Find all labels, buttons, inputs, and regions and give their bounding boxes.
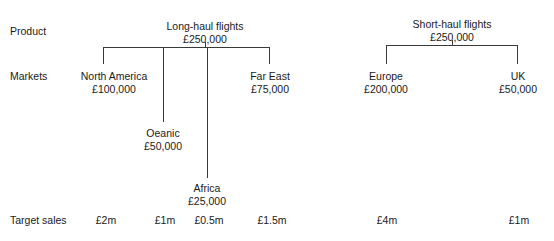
short-haul-connector-group: [386, 40, 518, 64]
node-long-haul-flights-value: £250,000: [166, 33, 243, 46]
node-north-america: North America £100,000: [81, 70, 148, 95]
node-north-america-name: North America: [81, 70, 148, 83]
node-oeanic-name: Oeanic: [144, 127, 182, 140]
row-label-markets: Markets: [10, 70, 47, 82]
node-far-east: Far East £75,000: [250, 70, 290, 95]
node-europe-value: £200,000: [364, 83, 408, 96]
node-africa-value: £25,000: [188, 195, 226, 208]
row-label-target-sales: Target sales: [10, 214, 67, 226]
node-uk-name: UK: [499, 70, 537, 83]
node-africa: Africa £25,000: [188, 182, 226, 207]
node-short-haul-flights-name: Short-haul flights: [413, 18, 492, 31]
row-label-product: Product: [10, 25, 46, 37]
node-far-east-value: £75,000: [250, 83, 290, 96]
node-uk: UK £50,000: [499, 70, 537, 95]
target-sales-africa: £0.5m: [194, 214, 223, 226]
node-oeanic: Oeanic £50,000: [144, 127, 182, 152]
node-africa-name: Africa: [188, 182, 226, 195]
hierarchy-diagram: Product Markets Target sales Long-haul f…: [0, 0, 554, 241]
node-short-haul-flights: Short-haul flights £250,000: [413, 18, 492, 43]
node-uk-value: £50,000: [499, 83, 537, 96]
long-haul-connector-group: [103, 42, 270, 178]
target-sales-far-east: £1.5m: [257, 214, 286, 226]
target-sales-uk: £1m: [509, 214, 529, 226]
node-long-haul-flights: Long-haul flights £250,000: [166, 20, 243, 45]
node-oeanic-value: £50,000: [144, 140, 182, 153]
target-sales-oeanic: £1m: [155, 214, 175, 226]
target-sales-europe: £4m: [377, 214, 397, 226]
node-europe-name: Europe: [364, 70, 408, 83]
node-north-america-value: £100,000: [81, 83, 148, 96]
node-long-haul-flights-name: Long-haul flights: [166, 20, 243, 33]
node-europe: Europe £200,000: [364, 70, 408, 95]
node-far-east-name: Far East: [250, 70, 290, 83]
target-sales-north-america: £2m: [96, 214, 116, 226]
node-short-haul-flights-value: £250,000: [413, 31, 492, 44]
